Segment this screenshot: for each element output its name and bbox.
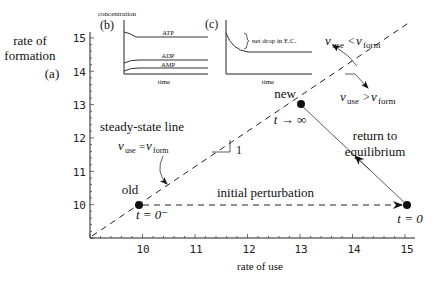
t0-point: [403, 201, 411, 209]
old-time-label: t = 0⁻: [136, 207, 168, 222]
svg-text:v: v: [340, 89, 346, 104]
new-time-label: t → ∞: [274, 112, 306, 127]
svg-text:13: 13: [294, 243, 307, 256]
inset-b-label: (b): [100, 18, 114, 32]
svg-text:15: 15: [400, 243, 413, 256]
y-tick-labels: 15 14 13 12 11 10: [73, 32, 87, 212]
svg-text:v: v: [146, 138, 152, 153]
panel-label-a: (a): [45, 66, 59, 81]
steady-state-diagram: rate of formation (a) 15 14 13 12 11 10 …: [0, 0, 446, 284]
x-axis: [90, 234, 415, 238]
svg-text:ATP: ATP: [162, 29, 174, 36]
svg-text:14: 14: [347, 243, 361, 256]
svg-text:AMP: AMP: [161, 61, 175, 68]
inset-c-label: (c): [205, 17, 218, 31]
inset-b: concentration (b) ATP ADP AMP time: [98, 10, 208, 86]
return-label-line1: return to: [353, 128, 397, 143]
below-region-label: v use > v form: [340, 89, 396, 106]
steady-state-pointer-arrow: [160, 156, 167, 184]
x-tick-labels: 10 11 12 13 14 15: [136, 243, 413, 256]
svg-text:form: form: [153, 146, 169, 155]
svg-text:14: 14: [73, 66, 87, 79]
svg-text:use: use: [347, 96, 359, 106]
y-axis-label-line1: rate of: [13, 33, 47, 48]
below-region-arrow: [345, 74, 368, 88]
inset-c: (c) net drop in E.C. time: [205, 17, 312, 86]
svg-text:10: 10: [136, 243, 149, 256]
new-point: [297, 100, 305, 108]
new-label: new: [274, 86, 296, 101]
inset-c-annotation: net drop in E.C.: [252, 37, 297, 45]
svg-text:12: 12: [73, 132, 86, 145]
equality-label: v use = v form: [118, 138, 169, 155]
above-region-label: v use < v form: [325, 33, 381, 50]
old-label: old: [122, 182, 139, 197]
svg-text:v: v: [118, 138, 124, 153]
svg-text:10: 10: [73, 199, 86, 212]
svg-text:=: =: [139, 140, 145, 152]
svg-text:use: use: [332, 40, 344, 50]
svg-text:15: 15: [73, 32, 86, 45]
svg-text:13: 13: [73, 99, 86, 112]
initial-perturbation-label: initial perturbation: [217, 185, 315, 200]
svg-text:<: <: [348, 34, 355, 48]
inset-b-ylabel: concentration: [98, 10, 137, 18]
return-label-line2: equilibrium: [345, 144, 406, 159]
svg-text:>: >: [363, 90, 370, 104]
svg-text:v: v: [325, 33, 331, 48]
svg-text:form: form: [378, 96, 396, 106]
svg-text:v: v: [356, 33, 362, 48]
x-axis-label: rate of use: [237, 260, 283, 272]
svg-text:form: form: [363, 40, 381, 50]
svg-text:v: v: [371, 89, 377, 104]
inset-b-xlabel: time: [158, 78, 170, 86]
svg-text:ADP: ADP: [161, 52, 174, 59]
slope-label: 1: [236, 143, 242, 157]
svg-text:use: use: [125, 146, 136, 155]
y-axis: [90, 32, 94, 238]
svg-text:12: 12: [242, 243, 255, 256]
t0-time-label: t = 0: [397, 211, 423, 226]
steady-state-label: steady-state line: [100, 119, 184, 134]
inset-c-xlabel: time: [262, 78, 274, 86]
slope-triangle: [212, 140, 230, 152]
svg-text:11: 11: [73, 166, 86, 179]
svg-text:11: 11: [189, 243, 202, 256]
y-axis-label-line2: formation: [4, 48, 56, 63]
